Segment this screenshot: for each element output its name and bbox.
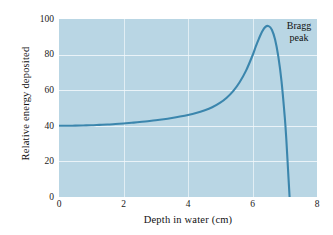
- bragg-peak-annotation: Bragg peak: [272, 20, 326, 43]
- x-tick-label: 6: [241, 200, 265, 210]
- x-tick-label: 2: [112, 200, 136, 210]
- annotation-line-2: peak: [272, 32, 326, 44]
- bragg-curve-path: [59, 26, 290, 197]
- x-axis-tick-labels: 0 2 4 6 8: [0, 200, 333, 214]
- y-axis-title: Relative energy deposited: [20, 15, 31, 193]
- x-tick-label: 8: [305, 200, 329, 210]
- data-curve-svg: [59, 19, 317, 197]
- x-axis-title: Depth in water (cm): [59, 214, 317, 225]
- x-tick-label: 4: [176, 200, 200, 210]
- chart-figure: 100 80 60 40 20 0 0 2 4 6 8 Depth in wat…: [0, 0, 333, 235]
- x-tick-label: 0: [47, 200, 71, 210]
- annotation-line-1: Bragg: [272, 20, 326, 32]
- plot-area: [59, 19, 317, 197]
